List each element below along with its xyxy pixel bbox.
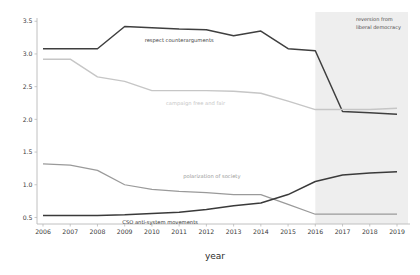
x-tick-label: 2010 [144, 228, 160, 235]
x-tick-label: 2016 [307, 228, 323, 235]
x-tick-label: 2007 [62, 228, 78, 235]
x-tick-label: 2019 [389, 228, 405, 235]
y-tick-label: 3.5 [23, 17, 33, 24]
x-tick-label: 2011 [171, 228, 187, 235]
line-chart-svg: reversion from liberal democracy 0.51.01… [0, 0, 420, 275]
x-tick-label: 2013 [226, 228, 242, 235]
y-tick-label: 2.5 [23, 83, 33, 90]
x-tick-label: 2008 [90, 228, 106, 235]
y-axis-ticks: 0.51.01.52.02.53.03.5 [23, 17, 37, 220]
x-axis-title: year [205, 251, 225, 261]
x-tick-label: 2012 [199, 228, 215, 235]
series-inline-labels: respect counterargumentscampaign free an… [122, 37, 240, 226]
x-tick-label: 2017 [335, 228, 351, 235]
x-tick-label: 2006 [35, 228, 51, 235]
x-tick-label: 2009 [117, 228, 133, 235]
annotation-reversion-line1: reversion from [356, 16, 393, 22]
y-tick-label: 0.5 [23, 214, 33, 221]
y-tick-label: 1.5 [23, 148, 33, 155]
x-tick-label: 2015 [280, 228, 296, 235]
chart-figure: reversion from liberal democracy 0.51.01… [0, 0, 420, 275]
series-label: polarization of society [183, 173, 240, 180]
annotation-reversion-line2: liberal democracy [356, 24, 401, 31]
x-tick-label: 2018 [362, 228, 378, 235]
y-tick-label: 2.0 [23, 116, 33, 123]
y-tick-label: 3.0 [23, 50, 33, 57]
series-label: CSO anti-system movements [122, 219, 198, 226]
series-label: respect counterarguments [145, 37, 214, 44]
series-label: campaign free and fair [166, 100, 226, 107]
x-axis-ticks: 2006200720082009201020112012201320142015… [35, 224, 405, 235]
reversion-shaded-region [315, 12, 408, 224]
x-tick-label: 2014 [253, 228, 269, 235]
y-tick-label: 1.0 [23, 181, 33, 188]
